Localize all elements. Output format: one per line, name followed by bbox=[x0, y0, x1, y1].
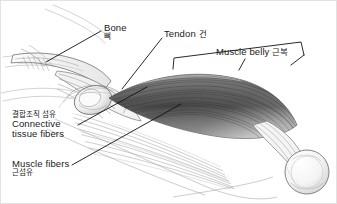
label-tendon: Tendon 건 bbox=[164, 29, 207, 39]
leader-bone bbox=[46, 31, 101, 62]
label-muscle-fibers-ko: 근섬유 bbox=[12, 169, 69, 177]
label-connective-tissue-fibers: 결합조직 섬유 Connective tissue fibers bbox=[12, 111, 64, 139]
anatomy-figure: Bone 뼈 Tendon 건 Muscle belly 근복 결합조직 섬유 … bbox=[0, 0, 337, 204]
label-bone: Bone 뼈 bbox=[104, 23, 127, 41]
label-muscle-fibers: Muscle fibers 근섬유 bbox=[12, 159, 69, 177]
label-bone-ko: 뼈 bbox=[104, 33, 127, 41]
label-muscle-belly-ko: 근복 bbox=[272, 47, 288, 57]
label-tendon-text: Tendon 건 bbox=[164, 29, 207, 39]
label-connective-en-line2: tissue fibers bbox=[12, 129, 64, 139]
label-tendon-ko: 건 bbox=[199, 29, 207, 39]
distal-bone-condyle-right bbox=[285, 150, 329, 194]
label-muscle-belly: Muscle belly 근복 bbox=[216, 47, 288, 57]
label-muscle-belly-text: Muscle belly 근복 bbox=[216, 47, 288, 57]
